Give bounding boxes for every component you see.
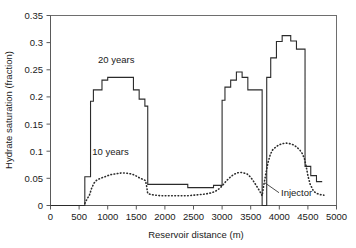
injector-label: Injector [281, 187, 312, 198]
x-axis-ticks [51, 206, 337, 210]
x-tick-label-7: 3500 [240, 211, 261, 222]
x-tick-label-6: 3000 [212, 211, 233, 222]
axis-lines [50, 16, 337, 206]
y-tick-label-1: 0.05 [25, 173, 44, 184]
series-line-20-years [51, 36, 323, 206]
x-tick-label-2: 1000 [97, 211, 118, 222]
y-tick-label-4: 0.2 [30, 91, 43, 102]
x-axis-tick-labels: 0 500 1000 1500 2000 2500 3000 3500 4000… [48, 211, 347, 222]
x-tick-label-1: 500 [71, 211, 87, 222]
y-tick-label-3: 0.15 [25, 119, 44, 130]
x-tick-label-3: 1500 [126, 211, 147, 222]
y-tick-label-7: 0.35 [25, 10, 44, 21]
x-tick-label-9: 4500 [297, 211, 318, 222]
data-series-group [51, 36, 324, 206]
y-axis-tick-labels: 0 0.05 0.1 0.15 0.2 0.25 0.3 0.35 [25, 10, 44, 211]
x-axis-title: Reservoir distance (m) [148, 229, 244, 240]
y-tick-label-6: 0.3 [30, 37, 43, 48]
plot-frame [50, 16, 337, 206]
x-tick-label-4: 2000 [154, 211, 175, 222]
y-tick-label-0: 0 [38, 200, 43, 211]
y-axis-ticks [47, 16, 51, 206]
chart-figure: 0 0.05 0.1 0.15 0.2 0.25 0.3 0.35 0 5 [0, 0, 356, 248]
y-tick-label-5: 0.25 [25, 64, 44, 75]
x-tick-label-0: 0 [48, 211, 53, 222]
chart-annotations: 20 years 10 years Injector [92, 54, 312, 197]
series-label-10-years: 10 years [92, 146, 129, 157]
chart-canvas: 0 0.05 0.1 0.15 0.2 0.25 0.3 0.35 0 5 [0, 0, 356, 248]
y-tick-label-2: 0.1 [30, 146, 43, 157]
y-axis-title: Hydrate saturation (fraction) [3, 51, 14, 169]
x-tick-label-5: 2500 [183, 211, 204, 222]
x-tick-label-8: 4000 [269, 211, 290, 222]
x-tick-label-10: 5000 [326, 211, 347, 222]
series-label-20-years: 20 years [98, 54, 135, 65]
